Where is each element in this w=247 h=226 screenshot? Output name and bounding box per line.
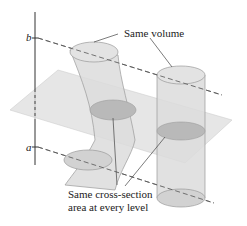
cylinder-cross-section xyxy=(157,122,205,140)
oblique-cross-section xyxy=(90,100,136,120)
cylinder-top-ellipse xyxy=(157,66,205,84)
annotation-cross-section-1: Same cross-section xyxy=(68,188,153,200)
cavalieri-diagram: b a Same volume Same cross-section area … xyxy=(0,0,247,226)
cylinder-bottom-ellipse xyxy=(157,189,205,207)
oblique-top-ellipse xyxy=(70,42,118,62)
right-cylinder xyxy=(157,66,205,207)
leader-volume-left xyxy=(94,34,118,42)
label-a: a xyxy=(26,141,32,153)
annotation-same-volume: Same volume xyxy=(124,27,184,39)
annotation-cross-section-2: area at every level xyxy=(68,201,148,213)
oblique-bottom-ellipse xyxy=(64,150,112,170)
leader-volume-right xyxy=(150,38,172,67)
label-b: b xyxy=(26,31,32,43)
